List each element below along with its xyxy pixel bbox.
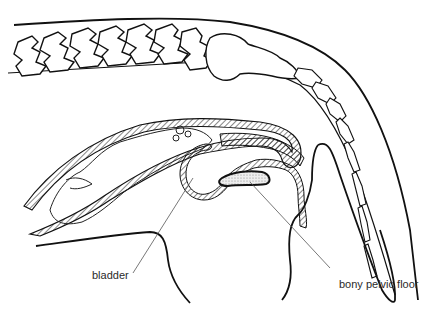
fetus <box>50 126 212 224</box>
anatomical-diagram: bladder bony pelvic floor <box>0 0 436 325</box>
abdomen-outline <box>36 232 190 303</box>
bladder-label: bladder <box>92 270 129 281</box>
bony-pelvic-floor <box>219 171 269 186</box>
vertebrae <box>14 24 300 80</box>
bony-pelvic-floor-label: bony pelvic floor <box>339 279 419 290</box>
spine-baseline <box>8 62 395 295</box>
bladder-leader-line <box>133 178 193 273</box>
diagram-drawing <box>0 0 436 325</box>
